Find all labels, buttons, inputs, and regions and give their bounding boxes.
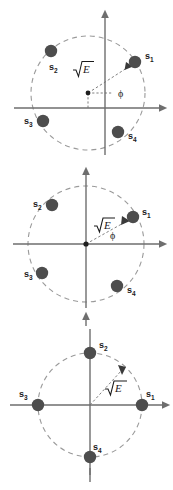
constellation-point-s1 (129, 56, 141, 68)
circle-center-dot (86, 91, 91, 96)
point-label-s3-subscript: 3 (29, 121, 33, 128)
constellation-point-s3 (37, 115, 49, 127)
point-label-s1-subscript: 1 (147, 212, 151, 219)
phase-angle-label: ϕ (110, 230, 115, 241)
point-label-s2-subscript: 2 (38, 204, 42, 211)
constellation-point-s1 (127, 211, 139, 223)
constellation-point-s4 (112, 126, 124, 138)
constellation-panel-c: s 1 s 2 s 3 s 4 E (0, 327, 173, 490)
svg-text:E: E (114, 382, 122, 394)
point-label-s1-subscript: 1 (151, 394, 155, 401)
point-label-s3-subscript: 3 (29, 274, 33, 281)
phase-angle-label: ϕ (118, 88, 123, 99)
point-label-s1-subscript: 1 (150, 56, 154, 63)
point-label-s4-subscript: 4 (98, 447, 102, 454)
constellation-point-s4 (111, 280, 123, 292)
point-label-s2-subscript: 2 (104, 345, 108, 352)
circle-center-dot (83, 241, 88, 246)
radius-vector (88, 66, 130, 93)
point-label-s2-subscript: 2 (54, 67, 58, 74)
point-label-s4-subscript: 4 (132, 290, 136, 297)
point-label-s4-subscript: 4 (133, 136, 137, 143)
constellation-panel-a: s 1 s 2 s 3 s 4 E ϕ (0, 0, 173, 163)
radius-label-sqrt-e: E (73, 62, 94, 77)
constellation-point-s4 (84, 451, 96, 463)
constellation-point-s1 (136, 399, 148, 411)
constellation-point-s2 (45, 45, 57, 57)
constellation-point-s3 (32, 399, 44, 411)
point-label-s3-subscript: 3 (24, 394, 28, 401)
svg-text:E: E (82, 63, 90, 75)
radius-label-sqrt-e: E (105, 381, 127, 395)
constellation-panel-b: s 1 s 2 s 3 s 4 E ϕ (0, 163, 173, 326)
constellation-figure: s 1 s 2 s 3 s 4 E ϕ (0, 0, 173, 490)
constellation-point-s3 (36, 267, 48, 279)
constellation-point-s2 (46, 199, 58, 211)
constellation-point-s2 (84, 347, 96, 359)
